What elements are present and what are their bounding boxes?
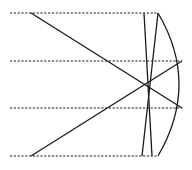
concave-mirror-ray-diagram [0,0,192,170]
reflected-rays [31,13,182,156]
concave-mirror-arc [158,13,179,156]
